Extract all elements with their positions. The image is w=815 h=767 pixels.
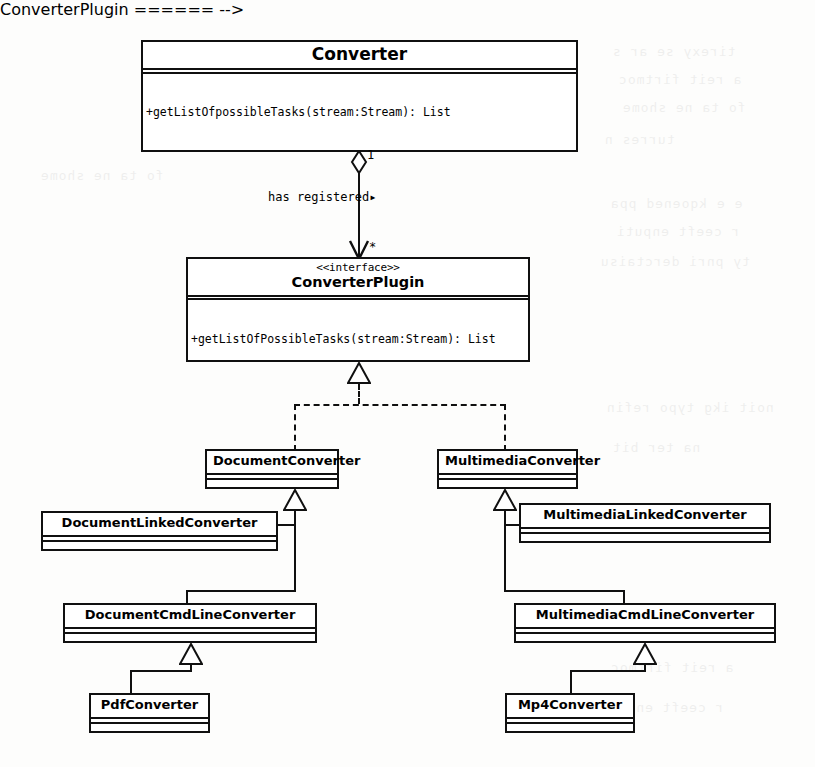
class-operations-compartment-document-cmdline-converter	[65, 634, 315, 641]
generalization-line-document-linked	[277, 524, 296, 526]
class-operations-compartment-converter: +getListOfpossibleTasks(stream:Stream): …	[143, 74, 576, 150]
scan-showthrough-text: turres n	[604, 132, 675, 147]
class-operations-compartment-document-converter	[207, 480, 337, 487]
realization-line-bus	[294, 404, 506, 406]
class-operations-compartment-mp4-converter	[507, 724, 633, 731]
generalization-line-multimedia-cmdline-h	[504, 590, 625, 592]
class-name-multimedia-linked-converter: MultimediaLinkedConverter	[521, 505, 769, 529]
generalization-line-multimedia-cmdline-v	[623, 590, 625, 604]
class-box-converter-plugin[interactable]: <<interface>> ConverterPlugin +getListOf…	[186, 257, 530, 362]
class-operations-compartment-pdf-converter	[91, 724, 208, 731]
uml-diagram-canvas: tirexy se ar s a reit firtmoc fo ta ne s…	[0, 0, 815, 767]
scan-showthrough-text: fo ta ne shome	[622, 100, 746, 115]
realization-line-drop-document	[294, 404, 296, 451]
scan-showthrough-text: r ceeft enputi	[616, 224, 740, 239]
scan-showthrough-text: na ter bit	[612, 440, 700, 455]
multiplicity-target: *	[369, 240, 376, 254]
class-name-converter: Converter	[143, 42, 576, 70]
class-name-document-linked-converter: DocumentLinkedConverter	[43, 513, 276, 537]
realization-line-stem	[358, 384, 360, 404]
class-operations-compartment-multimedia-cmdline-converter	[516, 634, 774, 641]
class-name-multimedia-converter: MultimediaConverter	[439, 451, 576, 475]
association-label-has-registered: has registered▸	[268, 190, 376, 204]
operation-row: +getListOfpossibleTasks(stream:Stream): …	[146, 105, 573, 120]
scan-showthrough-text: ty pnri derctaisu	[600, 254, 750, 269]
stereotype-interface: <<interface>>	[194, 262, 522, 274]
realization-line-drop-multimedia	[504, 404, 506, 451]
class-name-converter-plugin: <<interface>> ConverterPlugin	[188, 259, 528, 297]
operation-row: +getListOfPossibleTasks(stream:Stream): …	[191, 332, 525, 347]
class-name-document-cmdline-converter: DocumentCmdLineConverter	[65, 605, 315, 629]
scan-showthrough-text: noit ikg typo refin	[606, 400, 774, 415]
scan-showthrough-text: tirexy se ar s	[612, 44, 736, 59]
class-name-pdf-converter: PdfConverter	[91, 695, 208, 719]
class-box-converter[interactable]: Converter +getListOfpossibleTasks(stream…	[141, 40, 578, 152]
class-box-multimedia-linked-converter[interactable]: MultimediaLinkedConverter	[519, 503, 771, 543]
class-box-mp4-converter[interactable]: Mp4Converter	[505, 693, 635, 733]
class-name-multimedia-cmdline-converter: MultimediaCmdLineConverter	[516, 605, 774, 629]
class-operations-compartment-multimedia-linked-converter	[521, 534, 769, 541]
class-box-multimedia-converter[interactable]: MultimediaConverter	[437, 449, 578, 489]
class-name-mp4-converter: Mp4Converter	[507, 695, 633, 719]
class-box-pdf-converter[interactable]: PdfConverter	[89, 693, 210, 733]
generalization-line-multimedia-trunk	[504, 510, 506, 592]
class-operations-compartment-converter-plugin: +getListOfPossibleTasks(stream:Stream): …	[188, 300, 528, 360]
class-box-multimedia-cmdline-converter[interactable]: MultimediaCmdLineConverter	[514, 603, 776, 643]
class-box-document-cmdline-converter[interactable]: DocumentCmdLineConverter	[63, 603, 317, 643]
generalization-line-mp4-v2	[570, 670, 572, 694]
scan-showthrough-text: a reit firtmoc	[610, 660, 734, 675]
multiplicity-source: 1	[367, 148, 374, 162]
class-operations-compartment-document-linked-converter	[43, 542, 276, 549]
generalization-line-pdf-v2	[130, 670, 132, 694]
generalization-line-document-cmdline-v	[186, 590, 188, 604]
class-operations-compartment-multimedia-converter	[439, 480, 576, 487]
generalization-line-pdf-h	[130, 670, 192, 672]
scan-showthrough-text: fo ta ne shome	[40, 168, 164, 183]
generalization-line-document-trunk	[294, 510, 296, 592]
class-box-document-converter[interactable]: DocumentConverter	[205, 449, 339, 489]
class-name-document-converter: DocumentConverter	[207, 451, 337, 475]
generalization-line-mp4-h	[570, 670, 646, 672]
scan-showthrough-text: e e kqoened ppa	[610, 196, 742, 211]
class-box-document-linked-converter[interactable]: DocumentLinkedConverter	[41, 511, 278, 551]
generalization-line-document-cmdline-h	[186, 590, 296, 592]
scan-showthrough-text: a reit firtmoc	[618, 72, 742, 87]
